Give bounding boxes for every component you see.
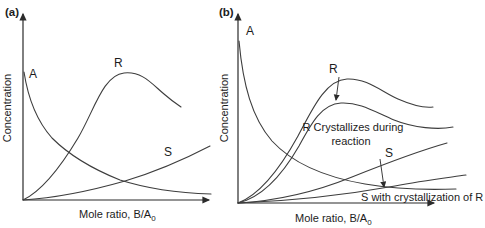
panel-b-tag: (b) bbox=[219, 6, 234, 18]
annotation-r-crystallizes-line2: reaction bbox=[331, 135, 370, 147]
s-crystallization-arrow bbox=[380, 159, 384, 187]
panel-a-label-S: S bbox=[164, 145, 172, 159]
panel-b-label-R: R bbox=[329, 62, 338, 76]
panel-a-label-A: A bbox=[29, 67, 37, 81]
panel-b-curve-R-crystallized bbox=[238, 103, 453, 203]
panel-a-tag: (a) bbox=[5, 6, 19, 18]
panel-b-y-axis-label: Concentration bbox=[218, 74, 230, 143]
r-crystallization-arrow bbox=[336, 77, 339, 100]
panel-a-x-axis-label: Mole ratio, B/A0 bbox=[79, 208, 156, 223]
annotation-s-crystallization: S with crystallization of R bbox=[361, 191, 483, 203]
two-panel-concentration-figure: (a) Concentration Mole ratio, B/A0 A R S… bbox=[0, 0, 485, 228]
figure-svg: (a) Concentration Mole ratio, B/A0 A R S… bbox=[0, 0, 485, 228]
panel-a: (a) Concentration Mole ratio, B/A0 A R S bbox=[1, 6, 211, 223]
panel-b-label-S: S bbox=[385, 146, 393, 160]
panel-a-label-R: R bbox=[114, 56, 123, 70]
panel-b-x-axis-label: Mole ratio, B/A0 bbox=[295, 212, 372, 227]
panel-a-curve-R bbox=[23, 73, 181, 200]
panel-b-label-A: A bbox=[246, 24, 254, 38]
panel-b-curve-A bbox=[239, 41, 456, 189]
panel-a-y-axis-label: Concentration bbox=[1, 74, 13, 143]
panel-b: (b) Concentration Mole ratio, B/A0 A R S… bbox=[218, 6, 483, 227]
annotation-r-crystallizes-line1: R Crystallizes during bbox=[303, 121, 404, 133]
